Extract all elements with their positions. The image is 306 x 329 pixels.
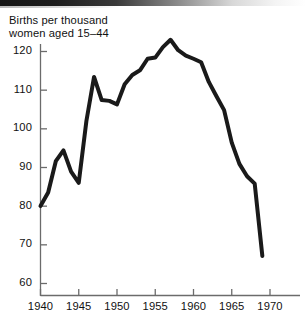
y-axis-ticks <box>41 52 48 284</box>
y-axis-tick-label: 90 <box>4 160 32 172</box>
x-axis-tick-label: 1955 <box>135 300 175 312</box>
data-series-line <box>41 40 263 256</box>
line-chart-plot <box>0 0 306 329</box>
y-axis-tick-label: 60 <box>4 276 32 288</box>
x-axis-tick-label: 1950 <box>97 300 137 312</box>
x-axis-tick-label: 1945 <box>59 300 99 312</box>
y-axis-tick-label: 120 <box>4 44 32 56</box>
x-axis-tick-label: 1940 <box>21 300 61 312</box>
x-axis-tick-label: 1970 <box>250 300 290 312</box>
x-axis-ticks <box>41 289 271 296</box>
y-axis-tick-label: 80 <box>4 199 32 211</box>
y-axis-tick-label: 110 <box>4 83 32 95</box>
y-axis-tick-label: 70 <box>4 237 32 249</box>
x-axis-tick-label: 1965 <box>212 300 252 312</box>
y-axis-tick-label: 100 <box>4 121 32 133</box>
x-axis-tick-label: 1960 <box>174 300 214 312</box>
